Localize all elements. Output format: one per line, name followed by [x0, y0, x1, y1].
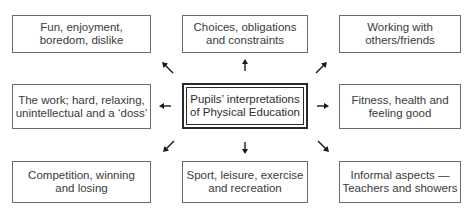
node-label: The work; hard, relaxing, unintellectual… [16, 94, 148, 120]
node-choices-obligations: Choices, obligations and constraints [182, 15, 308, 53]
node-fitness-health: Fitness, health and feeling good [339, 84, 461, 129]
node-working-with-others: Working with others/friends [339, 15, 461, 53]
arrow-north-icon [238, 58, 252, 72]
center-node-inner: Pupils’ interpretations of Physical Educ… [186, 87, 304, 125]
node-label: Competition, winning and losing [28, 169, 135, 195]
node-competition: Competition, winning and losing [12, 161, 151, 203]
node-fun-enjoyment: Fun, enjoyment, boredom, dislike [12, 15, 151, 53]
arrow-east-icon [316, 99, 330, 113]
arrow-north-west-icon [161, 61, 175, 75]
arrow-west-icon [158, 99, 172, 113]
node-the-work: The work; hard, relaxing, unintellectual… [12, 84, 151, 129]
node-sport-leisure: Sport, leisure, exercise and recreation [182, 161, 308, 203]
center-node: Pupils’ interpretations of Physical Educ… [182, 83, 308, 129]
center-node-label: Pupils’ interpretations of Physical Educ… [190, 93, 300, 119]
node-label: Working with others/friends [365, 21, 435, 47]
node-label: Fun, enjoyment, boredom, dislike [40, 21, 124, 47]
arrow-south-icon [238, 141, 252, 155]
node-label: Fitness, health and feeling good [351, 94, 448, 120]
node-informal-aspects: Informal aspects — Teachers and showers [339, 161, 461, 203]
arrow-north-east-icon [314, 61, 328, 75]
node-label: Choices, obligations and constraints [194, 21, 297, 47]
arrow-south-west-icon [162, 139, 176, 153]
arrow-south-east-icon [316, 139, 330, 153]
node-label: Sport, leisure, exercise and recreation [187, 169, 304, 195]
node-label: Informal aspects — Teachers and showers [342, 169, 457, 195]
